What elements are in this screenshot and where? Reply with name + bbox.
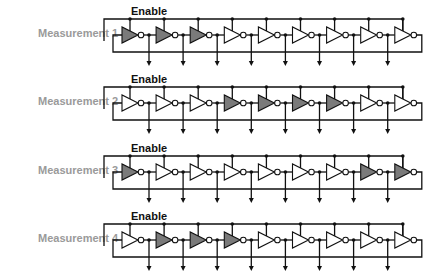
output-arrow-icon bbox=[215, 198, 220, 203]
inverter-bubble bbox=[138, 169, 144, 175]
output-arrow-icon bbox=[385, 266, 390, 271]
inverter-bubble bbox=[377, 169, 383, 175]
junction-dot bbox=[299, 85, 303, 89]
inverter-bubble bbox=[172, 237, 178, 243]
junction-dot bbox=[196, 222, 200, 226]
inverter-bubble bbox=[138, 100, 144, 106]
inverter-bubble bbox=[343, 32, 349, 38]
measurement-row-4: Measurement 4 Enable bbox=[0, 205, 430, 273]
junction-dot bbox=[196, 85, 200, 89]
output-arrow-icon bbox=[385, 61, 390, 66]
output-arrow-icon bbox=[215, 61, 220, 66]
junction-dot bbox=[128, 17, 132, 21]
junction-dot bbox=[128, 222, 132, 226]
inverter-chain bbox=[0, 137, 430, 205]
output-arrow-icon bbox=[215, 266, 220, 271]
measurement-row-1: Measurement 1 Enable bbox=[0, 0, 430, 68]
inverter-bubble bbox=[343, 100, 349, 106]
output-arrow-icon bbox=[317, 61, 322, 66]
junction-dot bbox=[401, 17, 405, 21]
measurement-row-2: Measurement 2 Enable bbox=[0, 68, 430, 136]
inverter-bubble bbox=[241, 32, 247, 38]
junction-dot bbox=[401, 222, 405, 226]
inverter-bubble bbox=[411, 237, 417, 243]
output-arrow-icon bbox=[317, 266, 322, 271]
output-arrow-icon bbox=[147, 61, 152, 66]
junction-dot bbox=[367, 17, 371, 21]
inverter-bubble bbox=[206, 32, 212, 38]
junction-dot bbox=[265, 85, 269, 89]
output-arrow-icon bbox=[181, 129, 186, 134]
inverter-bubble bbox=[138, 32, 144, 38]
inverter-bubble bbox=[309, 100, 315, 106]
output-arrow-icon bbox=[351, 129, 356, 134]
junction-dot bbox=[401, 154, 405, 158]
inverter-bubble bbox=[206, 169, 212, 175]
junction-dot bbox=[333, 17, 337, 21]
junction-dot bbox=[128, 85, 132, 89]
inverter-bubble bbox=[411, 169, 417, 175]
output-arrow-icon bbox=[181, 61, 186, 66]
inverter-bubble bbox=[206, 100, 212, 106]
inverter-chain bbox=[0, 68, 430, 136]
junction-dot bbox=[162, 222, 166, 226]
output-arrow-icon bbox=[283, 61, 288, 66]
junction-dot bbox=[196, 17, 200, 21]
junction-dot bbox=[196, 154, 200, 158]
inverter-bubble bbox=[275, 237, 281, 243]
inverter-bubble bbox=[275, 169, 281, 175]
output-arrow-icon bbox=[385, 129, 390, 134]
inverter-chain bbox=[0, 205, 430, 273]
output-arrow-icon bbox=[351, 198, 356, 203]
output-arrow-icon bbox=[385, 198, 390, 203]
junction-dot bbox=[265, 17, 269, 21]
inverter-bubble bbox=[411, 32, 417, 38]
output-arrow-icon bbox=[283, 198, 288, 203]
junction-dot bbox=[367, 85, 371, 89]
junction-dot bbox=[231, 85, 235, 89]
output-arrow-icon bbox=[249, 266, 254, 271]
junction-dot bbox=[265, 154, 269, 158]
inverter-bubble bbox=[309, 32, 315, 38]
inverter-bubble bbox=[377, 237, 383, 243]
output-arrow-icon bbox=[249, 198, 254, 203]
junction-dot bbox=[162, 85, 166, 89]
inverter-bubble bbox=[343, 237, 349, 243]
junction-dot bbox=[333, 222, 337, 226]
output-arrow-icon bbox=[147, 198, 152, 203]
inverter-bubble bbox=[343, 169, 349, 175]
output-arrow-icon bbox=[249, 129, 254, 134]
output-arrow-icon bbox=[317, 198, 322, 203]
junction-dot bbox=[265, 222, 269, 226]
output-arrow-icon bbox=[181, 198, 186, 203]
inverter-bubble bbox=[377, 100, 383, 106]
inverter-bubble bbox=[172, 100, 178, 106]
output-arrow-icon bbox=[351, 266, 356, 271]
inverter-bubble bbox=[172, 169, 178, 175]
inverter-bubble bbox=[411, 100, 417, 106]
junction-dot bbox=[333, 85, 337, 89]
inverter-bubble bbox=[241, 100, 247, 106]
junction-dot bbox=[128, 154, 132, 158]
inverter-bubble bbox=[206, 237, 212, 243]
junction-dot bbox=[367, 222, 371, 226]
inverter-bubble bbox=[241, 169, 247, 175]
junction-dot bbox=[299, 17, 303, 21]
inverter-bubble bbox=[377, 32, 383, 38]
junction-dot bbox=[299, 222, 303, 226]
measurement-row-3: Measurement 3 Enable bbox=[0, 137, 430, 205]
inverter-bubble bbox=[275, 100, 281, 106]
output-arrow-icon bbox=[181, 266, 186, 271]
junction-dot bbox=[367, 154, 371, 158]
inverter-bubble bbox=[241, 237, 247, 243]
junction-dot bbox=[231, 222, 235, 226]
output-arrow-icon bbox=[147, 129, 152, 134]
junction-dot bbox=[299, 154, 303, 158]
output-arrow-icon bbox=[283, 266, 288, 271]
inverter-bubble bbox=[309, 169, 315, 175]
junction-dot bbox=[401, 85, 405, 89]
inverter-bubble bbox=[172, 32, 178, 38]
junction-dot bbox=[231, 154, 235, 158]
junction-dot bbox=[333, 154, 337, 158]
output-arrow-icon bbox=[351, 61, 356, 66]
